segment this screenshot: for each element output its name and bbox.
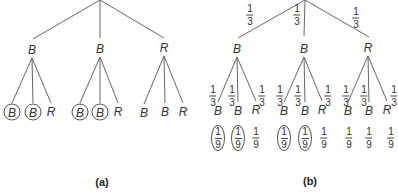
- fraction-numerator: 1: [252, 127, 260, 137]
- edge-l1-to-leaf: [304, 57, 322, 101]
- branch-probability-l2: 13: [390, 85, 398, 108]
- edge-root-to-l1: [100, 0, 164, 38]
- edge-root-to-l1: [33, 0, 100, 39]
- fraction-numerator: 1: [280, 127, 288, 137]
- fraction-denominator: 9: [387, 140, 395, 150]
- edge-l1-to-leaf: [237, 57, 256, 101]
- fraction-denominator: 3: [258, 98, 266, 108]
- fraction-denominator: 3: [293, 17, 301, 27]
- joint-probability: 19: [211, 125, 225, 151]
- edge-l1-to-leaf: [368, 56, 369, 102]
- fraction-denominator: 3: [390, 98, 398, 108]
- fraction-numerator: 1: [387, 127, 395, 137]
- joint-probability: 19: [231, 125, 245, 151]
- fraction-numerator: 1: [360, 85, 368, 95]
- joint-probability: 19: [345, 127, 353, 150]
- panel-a-node-l1-1: B: [96, 43, 104, 55]
- panel-b-node-l1-0: B: [233, 43, 241, 55]
- branch-probability-l2: 13: [360, 85, 368, 108]
- fraction-denominator: 9: [234, 140, 242, 150]
- fraction-denominator: 3: [342, 98, 350, 108]
- fraction-denominator: 9: [365, 140, 373, 150]
- panel-a-caption: (a): [95, 176, 108, 188]
- fraction-numerator: 1: [258, 85, 266, 95]
- panel-a-leaf-7: B: [161, 106, 169, 118]
- fraction-numerator: 1: [320, 127, 328, 137]
- branch-probability-l2: 13: [324, 85, 332, 108]
- edge-l1-to-leaf: [304, 57, 305, 102]
- fraction-numerator: 1: [345, 127, 353, 137]
- branch-probability-l2: 13: [294, 85, 302, 108]
- edge-l1-to-leaf: [164, 56, 165, 103]
- fraction-denominator: 9: [252, 140, 260, 150]
- panel-a-leaf-3: B: [72, 104, 89, 121]
- panel-a-leaf-5: R: [114, 106, 123, 118]
- fraction-numerator: 1: [214, 127, 222, 137]
- panel-b-leaf-4: B: [301, 105, 309, 117]
- panel-b-node-l1-2: R: [364, 42, 373, 54]
- panel-a-leaf-6: B: [140, 107, 148, 119]
- edge-l1-to-leaf: [12, 58, 32, 103]
- edge-l1-to-leaf: [144, 56, 164, 104]
- joint-probability: 19: [365, 127, 373, 150]
- panel-a-node-l1-0: B: [28, 44, 36, 56]
- fraction-numerator: 1: [276, 85, 284, 95]
- fraction-numerator: 1: [324, 85, 332, 95]
- branch-probability-l2: 13: [258, 85, 266, 108]
- branch-probability-l2: 13: [342, 85, 350, 108]
- joint-probability: 19: [298, 125, 312, 151]
- fraction-denominator: 3: [360, 98, 368, 108]
- panel-a-leaf-1: B: [25, 104, 42, 121]
- panel-a-leaf-4: B: [92, 104, 109, 121]
- fraction-denominator: 3: [352, 20, 360, 30]
- fraction-numerator: 1: [365, 127, 373, 137]
- branch-probability-l1: 13: [246, 4, 254, 27]
- fraction-numerator: 1: [352, 7, 360, 17]
- fraction-denominator: 3: [276, 98, 284, 108]
- panel-a-leaf-0: B: [4, 104, 21, 121]
- fraction-denominator: 3: [209, 98, 217, 108]
- panel-b-caption: (b): [303, 175, 317, 187]
- fraction-numerator: 1: [390, 85, 398, 95]
- edge-l1-to-leaf: [237, 57, 238, 102]
- joint-probability: 19: [252, 127, 260, 150]
- edge-l1-to-leaf: [32, 58, 51, 103]
- fraction-numerator: 1: [246, 4, 254, 14]
- fraction-numerator: 1: [342, 85, 350, 95]
- edge-l1-to-leaf: [80, 57, 100, 103]
- fraction-denominator: 3: [228, 98, 236, 108]
- panel-a-leaf-8: R: [179, 106, 188, 118]
- fraction-denominator: 9: [280, 140, 288, 150]
- fraction-denominator: 9: [320, 140, 328, 150]
- fraction-denominator: 3: [294, 98, 302, 108]
- fraction-numerator: 1: [294, 85, 302, 95]
- branch-probability-l2: 13: [209, 85, 217, 108]
- fraction-numerator: 1: [234, 127, 242, 137]
- joint-probability: 19: [320, 127, 328, 150]
- edge-root-to-l1: [304, 0, 305, 36]
- edge-l1-to-leaf: [164, 56, 183, 103]
- fraction-denominator: 9: [214, 140, 222, 150]
- branch-probability-l1: 13: [293, 4, 301, 27]
- joint-probability: 19: [387, 127, 395, 150]
- panel-a-leaf-2: R: [47, 106, 56, 118]
- fraction-numerator: 1: [301, 127, 309, 137]
- edge-l1-to-leaf: [32, 58, 33, 103]
- fraction-numerator: 1: [228, 85, 236, 95]
- panel-b-node-l1-1: B: [300, 43, 308, 55]
- panel-a-node-l1-2: R: [160, 42, 169, 54]
- fraction-denominator: 3: [324, 98, 332, 108]
- branch-probability-l2: 13: [276, 85, 284, 108]
- edge-l1-to-leaf: [368, 56, 387, 101]
- fraction-denominator: 9: [345, 140, 353, 150]
- fraction-numerator: 1: [209, 85, 217, 95]
- fraction-numerator: 1: [293, 4, 301, 14]
- joint-probability: 19: [277, 125, 291, 151]
- branch-probability-l2: 13: [228, 85, 236, 108]
- edge-l1-to-leaf: [100, 57, 118, 103]
- fraction-denominator: 9: [301, 140, 309, 150]
- branch-probability-l1: 13: [352, 7, 360, 30]
- fraction-denominator: 3: [246, 17, 254, 27]
